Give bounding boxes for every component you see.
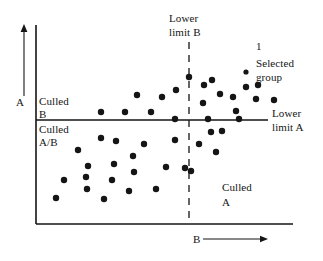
culled-b-label-line1: Culled	[39, 95, 69, 108]
selected-group-marker-number: 1	[256, 40, 262, 53]
scatter-point	[130, 153, 136, 159]
culled-ab-label-line2: A/B	[39, 136, 58, 149]
figure-scatter-culling-diagram: Culled B Culled A/B Culled A Lower limit…	[0, 0, 323, 261]
x-axis-direction-arrow-head	[260, 236, 268, 242]
scatter-point	[271, 97, 277, 103]
scatter-point	[113, 138, 119, 144]
culled-b-label-line2: B	[39, 108, 46, 121]
scatter-point	[153, 186, 159, 192]
scatter-point	[219, 128, 225, 134]
scatter-point	[208, 129, 214, 135]
scatter-point	[205, 116, 211, 122]
scatter-point	[188, 168, 194, 174]
lower-limit-b-label-line1: Lower	[169, 12, 198, 25]
scatter-point	[98, 109, 104, 115]
scatter-point	[159, 94, 165, 100]
lower-limit-b-label-line2: limit B	[169, 26, 201, 39]
selected-group-label-line1: Selected	[256, 57, 294, 70]
y-axis-label-a: A	[16, 96, 24, 109]
scatter-point	[230, 94, 236, 100]
scatter-point	[122, 109, 128, 115]
scatter-point	[109, 177, 115, 183]
scatter-point	[236, 116, 242, 122]
scatter-point	[83, 174, 89, 180]
scatter-point	[233, 108, 239, 114]
scatter-point	[126, 188, 132, 194]
scatter-point	[131, 169, 137, 175]
culled-a-label-line1: Culled	[222, 181, 252, 194]
scatter-point	[84, 186, 90, 192]
scatter-point	[85, 163, 91, 169]
scatter-point	[182, 165, 188, 171]
scatter-point	[75, 147, 81, 153]
scatter-point	[217, 91, 223, 97]
selected-group-legend-dot	[243, 69, 248, 74]
scatter-point	[163, 164, 169, 170]
scatter-point	[111, 161, 117, 167]
y-axis-direction-arrow-head	[21, 24, 28, 32]
scatter-point	[196, 141, 202, 147]
scatter-point	[61, 177, 67, 183]
scatter-point	[134, 92, 140, 98]
scatter-point	[186, 74, 192, 80]
culled-ab-label-line1: Culled	[39, 123, 69, 136]
lower-limit-a-label-line2: limit A	[272, 121, 304, 134]
scatter-point	[53, 195, 59, 201]
scatter-point	[98, 135, 104, 141]
scatter-point	[148, 109, 154, 115]
selected-group-label-line2: group	[256, 71, 282, 84]
scatter-point	[173, 87, 179, 93]
scatter-point	[209, 77, 215, 83]
scatter-point	[253, 96, 259, 102]
x-axis-label-b: B	[193, 233, 200, 246]
scatter-point	[101, 196, 107, 202]
scatter-point	[201, 82, 207, 88]
scatter-point	[172, 116, 178, 122]
scatter-point	[213, 149, 219, 155]
culled-a-label-line2: A	[222, 196, 230, 209]
scatter-point	[172, 137, 178, 143]
scatter-point	[141, 141, 147, 147]
scatter-point	[200, 100, 206, 106]
scatter-point	[243, 84, 249, 90]
lower-limit-a-label-line1: Lower	[272, 107, 301, 120]
